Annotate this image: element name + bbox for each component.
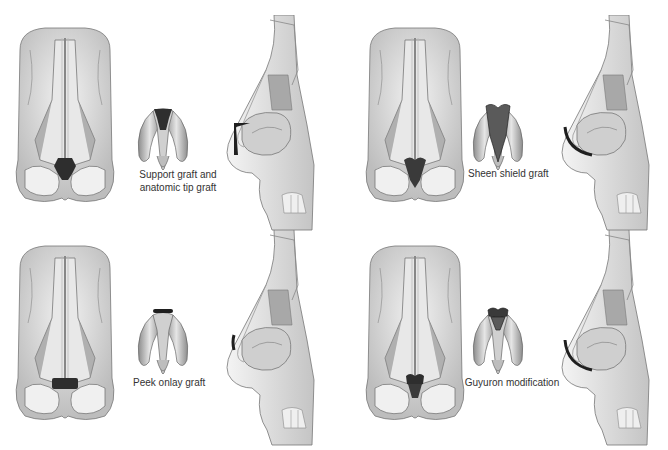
caption-line-2: anatomic tip graft [128, 181, 228, 194]
nose-profile-illustration [222, 230, 322, 450]
panel-guyuron-frontal [350, 228, 480, 428]
cartilage-illustration [470, 300, 526, 386]
cartilage-illustration [135, 300, 191, 386]
caption-guyuron: Guyuron modification [462, 376, 562, 389]
nose-profile-illustration [557, 15, 657, 235]
panel-shield-graft-frontal [350, 10, 480, 210]
nose-frontal-illustration [0, 228, 130, 428]
nose-profile-illustration [557, 230, 657, 450]
panel-onlay-graft-profile [222, 230, 322, 450]
panel-shield-graft-profile [557, 15, 657, 235]
panel-onlay-graft-frontal [0, 228, 130, 428]
panel-support-graft-frontal [0, 10, 130, 210]
caption-support-graft: Support graft and anatomic tip graft [128, 168, 228, 194]
nose-frontal-illustration [350, 228, 480, 428]
caption-line-1: Support graft and [128, 168, 228, 181]
caption-onlay-graft: Peek onlay graft [133, 376, 203, 389]
panel-support-graft-profile [222, 15, 322, 235]
nose-frontal-illustration [0, 10, 130, 210]
nose-profile-illustration [222, 15, 322, 235]
caption-shield-graft: Sheen shield graft [468, 167, 548, 180]
nose-frontal-illustration [350, 10, 480, 210]
panel-guyuron-profile [557, 230, 657, 450]
panel-guyuron-cartilage [470, 300, 526, 386]
panel-onlay-graft-cartilage [135, 300, 191, 386]
